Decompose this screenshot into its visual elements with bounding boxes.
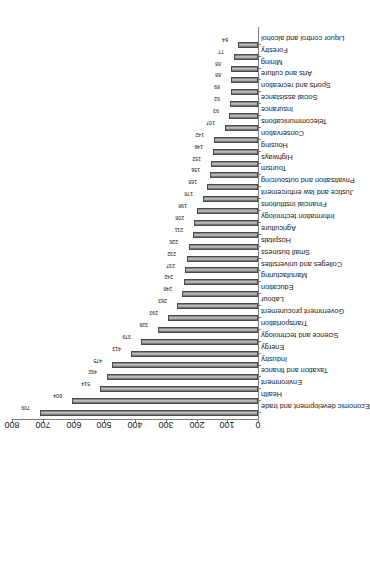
category-tick-mark xyxy=(258,246,261,247)
bar-slot: 152 xyxy=(12,158,258,170)
bar-value-label: 64 xyxy=(222,36,228,41)
bar[interactable] xyxy=(207,184,258,190)
bar[interactable] xyxy=(72,398,258,404)
category-tick-slot: Labour xyxy=(261,300,331,312)
category-tick-mark xyxy=(258,91,261,92)
bar-slot: 92 xyxy=(12,98,258,110)
bar[interactable] xyxy=(231,89,258,95)
bar-slot: 379 xyxy=(12,336,258,348)
bar[interactable] xyxy=(203,196,258,202)
bar[interactable] xyxy=(182,291,258,297)
bar[interactable] xyxy=(168,315,258,321)
category-tick-slot: Privatisation and outsourcing xyxy=(261,181,331,193)
category-tick-slot: Social assistance xyxy=(261,98,331,110)
category-tick-mark xyxy=(258,186,261,187)
bar[interactable] xyxy=(184,279,258,285)
bar-slot: 64 xyxy=(12,39,258,51)
bar[interactable] xyxy=(213,149,258,155)
bar[interactable] xyxy=(194,220,258,226)
bar[interactable] xyxy=(100,386,258,392)
category-tick-slot: Forestry xyxy=(261,51,331,63)
bar-slot: 88 xyxy=(12,63,258,75)
bar[interactable] xyxy=(185,267,258,273)
bar[interactable] xyxy=(234,54,258,60)
bar-slot: 263 xyxy=(12,300,258,312)
category-tick-mark xyxy=(258,412,261,413)
category-tick-slot: Conservation xyxy=(261,134,331,146)
category-tick-mark xyxy=(258,139,261,140)
category-tick-mark xyxy=(258,353,261,354)
category-tick-slot: Liquor control and alcohol xyxy=(261,39,331,51)
bar[interactable] xyxy=(177,303,258,309)
category-tick-mark xyxy=(258,198,261,199)
category-tick-slot: Industry xyxy=(261,360,331,372)
category-tick-mark xyxy=(258,151,261,152)
category-tick-slot: Telecommunications xyxy=(261,122,331,134)
category-tick-mark xyxy=(258,234,261,235)
category-tick-mark xyxy=(258,376,261,377)
bar-slot: 142 xyxy=(12,134,258,146)
category-tick-slot: Sports and recreation xyxy=(261,86,331,98)
category-tick-mark xyxy=(258,388,261,389)
bar[interactable] xyxy=(211,161,258,167)
bar-slot: 165 xyxy=(12,181,258,193)
bar[interactable] xyxy=(238,42,258,48)
category-tick-slot: Small business xyxy=(261,253,331,265)
plot-area: 7096045144924754133793262932632482422372… xyxy=(12,27,258,419)
bar-slot: 709 xyxy=(12,407,258,419)
bar[interactable] xyxy=(197,208,258,214)
value-axis: 0100200300400500600700800 xyxy=(12,419,259,447)
value-axis-tick-label: 100 xyxy=(220,421,235,430)
category-tick-slot: Colleges and universities xyxy=(261,265,331,277)
bar-slot: 107 xyxy=(12,122,258,134)
bar[interactable] xyxy=(231,66,258,72)
bar-slot: 156 xyxy=(12,170,258,182)
category-tick-mark xyxy=(258,56,261,57)
bar[interactable] xyxy=(40,410,258,416)
bar[interactable] xyxy=(231,77,258,83)
bar-slot: 226 xyxy=(12,241,258,253)
bar[interactable] xyxy=(214,137,258,143)
category-tick-mark xyxy=(258,400,261,401)
category-tick-mark xyxy=(258,79,261,80)
bar-slot: 237 xyxy=(12,265,258,277)
category-tick-mark xyxy=(258,281,261,282)
value-axis-tick-label: 200 xyxy=(189,421,204,430)
category-tick-slot: Mining xyxy=(261,63,331,75)
category-tick-slot: Tourism xyxy=(261,170,331,182)
value-axis-tick-label: 400 xyxy=(127,421,142,430)
bar[interactable] xyxy=(187,256,258,262)
bar-slot: 492 xyxy=(12,372,258,384)
category-tick-mark xyxy=(258,175,261,176)
bar[interactable] xyxy=(229,113,258,119)
category-tick-mark xyxy=(258,305,261,306)
bar[interactable] xyxy=(107,374,258,380)
bar[interactable] xyxy=(210,172,258,178)
category-label: Liquor control and alcohol xyxy=(261,35,345,42)
bar[interactable] xyxy=(141,339,258,345)
value-axis-tick-label: 700 xyxy=(35,421,50,430)
category-tick-slot: Manufacturing xyxy=(261,276,331,288)
category-tick-mark xyxy=(258,365,261,366)
value-axis-tick-label: 800 xyxy=(4,421,19,430)
bar[interactable] xyxy=(112,363,258,369)
bar-slot: 93 xyxy=(12,110,258,122)
category-tick-mark xyxy=(258,127,261,128)
category-tick-mark xyxy=(258,222,261,223)
bar[interactable] xyxy=(193,232,258,238)
category-tick-slot: Housing xyxy=(261,146,331,158)
bar[interactable] xyxy=(131,351,258,357)
bar[interactable] xyxy=(230,101,258,107)
bar[interactable] xyxy=(225,125,258,131)
bar[interactable] xyxy=(189,244,258,250)
bar-slot: 248 xyxy=(12,288,258,300)
bar-slot: 604 xyxy=(12,395,258,407)
bar-slot: 514 xyxy=(12,383,258,395)
value-axis-tick-label: 500 xyxy=(97,421,112,430)
category-tick-mark xyxy=(258,258,261,259)
category-tick-mark xyxy=(258,103,261,104)
bar-slot: 89 xyxy=(12,86,258,98)
category-tick-mark xyxy=(258,317,261,318)
bar[interactable] xyxy=(158,327,258,333)
